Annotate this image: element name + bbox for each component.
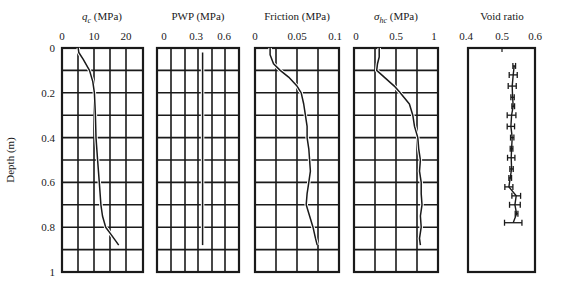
pwp-tick-0.3: 0.3 [189,30,203,42]
panel-qc [62,48,143,272]
void-tick-0.5: 0.5 [495,30,509,42]
pwp-tick-0: 0 [161,30,167,42]
panel-sigma-title: σhc (MPa) [374,10,418,25]
pwp-tick-0.6: 0.6 [217,30,231,42]
qc-tick-20: 20 [121,30,133,42]
sigma-tick-0.5: 0.5 [389,30,403,42]
friction-tick-0: 0 [252,30,258,42]
data-line [78,48,119,245]
sigma-tick-0: 0 [353,30,359,42]
panel-frame [468,48,535,272]
panel-pwp [157,48,239,272]
depth-tick-0.2: 0.2 [41,87,55,99]
depth-tick-0: 0 [50,42,56,54]
depth-axis-label: Depth (m) [4,137,17,183]
depth-tick-1: 1 [50,266,56,278]
data-line [509,66,517,223]
depth-tick-0.6: 0.6 [41,176,55,188]
void-tick-0.6: 0.6 [528,30,542,42]
qc-tick-10: 10 [89,30,101,42]
sigma-tick-1: 1 [431,30,437,42]
panel-sigma-hc [354,48,438,272]
depth-tick-0.4: 0.4 [41,132,55,144]
panel-void-title: Void ratio [480,10,524,22]
depth-ticks: 0 0.2 0.4 0.6 0.8 1 [41,42,55,278]
data-line-halo [377,48,422,245]
depth-tick-0.8: 0.8 [41,221,55,233]
panel-void-ratio [468,48,535,272]
friction-tick-0.05: 0.05 [287,30,307,42]
data-line-halo [78,48,119,245]
panel-qc-title: qc (MPa) [82,10,122,25]
friction-tick-0.1: 0.1 [328,30,342,42]
panel-friction-title: Friction (MPa) [264,10,330,23]
qc-tick-0: 0 [59,30,65,42]
x-tick-labels: 0 10 20 0 0.3 0.6 0 0.05 0.1 0 0.5 1 0.4… [59,30,542,42]
void-tick-0.4: 0.4 [459,30,473,42]
panel-friction [255,48,339,272]
depth-profile-figure: Depth (m) 0 0.2 0.4 0.6 0.8 1 qc (MPa) P… [0,0,562,289]
panel-pwp-title: PWP (MPa) [171,10,224,23]
